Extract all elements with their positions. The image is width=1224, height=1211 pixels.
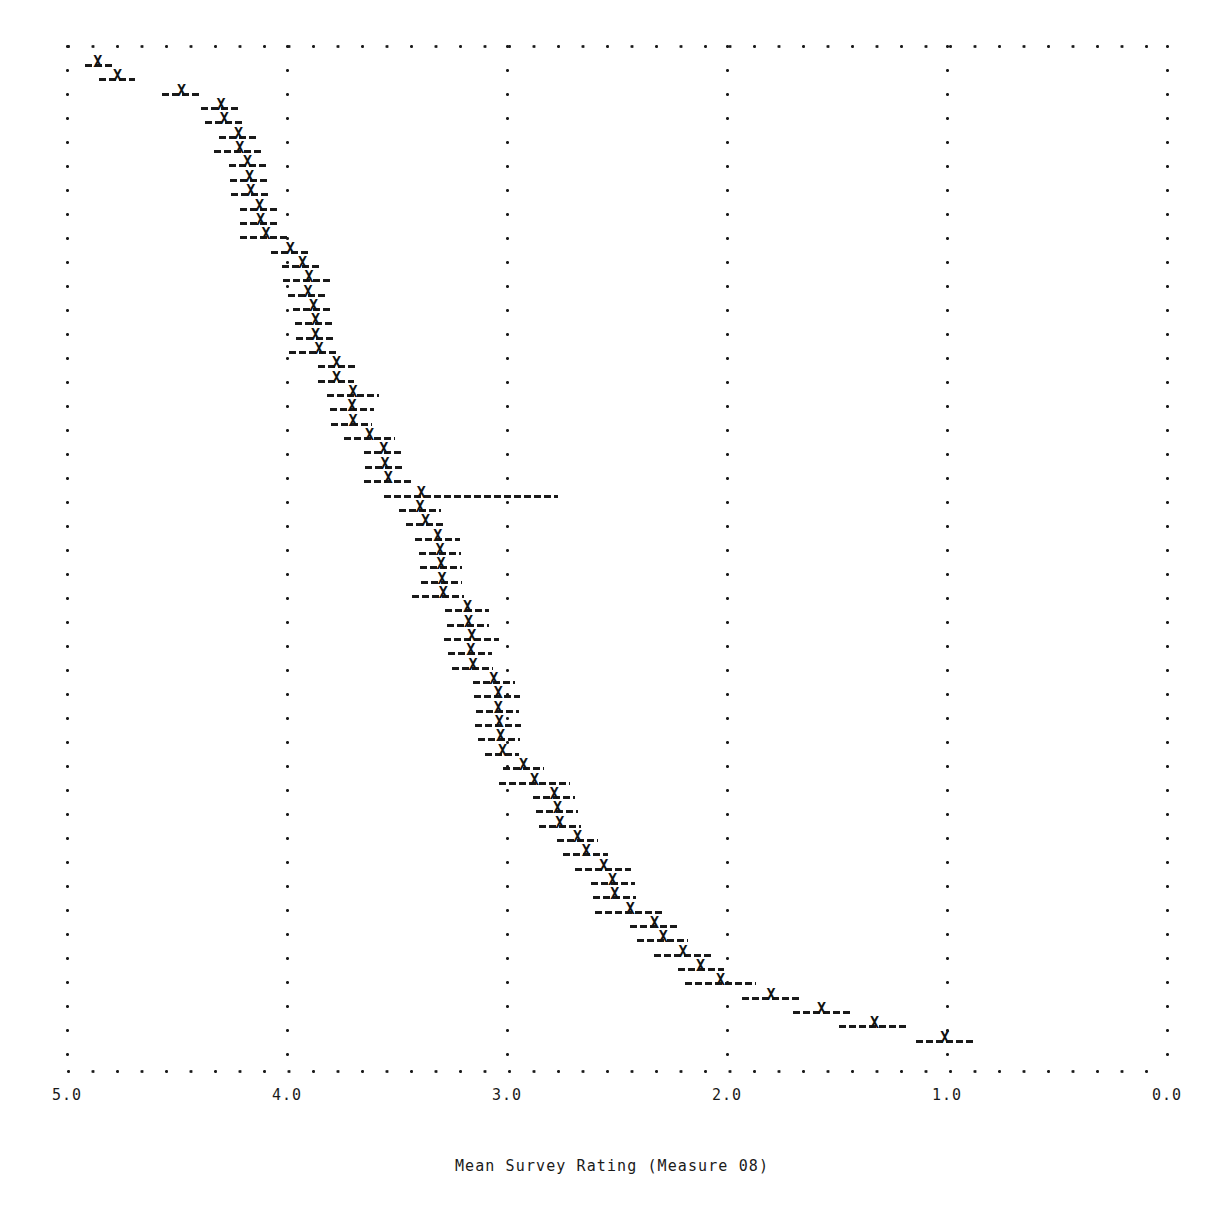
data-point-marker: X: [176, 85, 187, 98]
data-row: X: [0, 389, 1224, 402]
data-row: X: [0, 633, 1224, 646]
data-row: X: [0, 188, 1224, 201]
data-row: X: [0, 116, 1224, 129]
data-point-marker: X: [678, 946, 689, 959]
data-row: X: [0, 432, 1224, 445]
data-point-marker: X: [285, 243, 296, 256]
data-point-marker: X: [420, 515, 431, 528]
data-row: X: [0, 791, 1224, 804]
data-row: X: [0, 375, 1224, 388]
data-row: X: [0, 733, 1224, 746]
data-row: X: [0, 848, 1224, 861]
data-row: X: [0, 174, 1224, 187]
data-row: X: [0, 88, 1224, 101]
data-point-marker: X: [497, 745, 508, 758]
data-row: X: [0, 576, 1224, 589]
data-row: X: [0, 217, 1224, 230]
data-row: X: [0, 547, 1224, 560]
data-point-marker: X: [313, 343, 324, 356]
data-point-marker: X: [816, 1003, 827, 1016]
data-row: X: [0, 719, 1224, 732]
data-row: X: [0, 920, 1224, 933]
x-tick-label-0-0: 0.0: [1152, 1086, 1182, 1104]
data-row: X: [0, 777, 1224, 790]
confidence-interval-bar: [384, 495, 558, 498]
data-row: X: [0, 145, 1224, 158]
data-row: X: [0, 246, 1224, 259]
data-row: X: [0, 647, 1224, 660]
x-tick-label-5-0: 5.0: [52, 1086, 82, 1104]
data-row: X: [0, 231, 1224, 244]
data-row: X: [0, 906, 1224, 919]
data-row: X: [0, 131, 1224, 144]
data-point-marker: X: [695, 960, 706, 973]
data-row: X: [0, 260, 1224, 273]
data-row: X: [0, 662, 1224, 675]
x-axis-tick-labels: 5.04.03.02.01.00.0: [0, 1086, 1224, 1110]
data-point-marker: X: [609, 888, 620, 901]
data-row: X: [0, 590, 1224, 603]
data-row: X: [0, 992, 1224, 1005]
data-row: X: [0, 346, 1224, 359]
data-row: X: [0, 977, 1224, 990]
data-row: X: [0, 518, 1224, 531]
data-row: X: [0, 676, 1224, 689]
data-point-marker: X: [261, 228, 272, 241]
data-row: X: [0, 446, 1224, 459]
data-point-marker: X: [364, 429, 375, 442]
data-point-marker: X: [939, 1032, 950, 1045]
data-row: X: [0, 891, 1224, 904]
gridline-top: [67, 45, 1168, 48]
data-row: X: [0, 159, 1224, 172]
data-point-marker: X: [438, 587, 449, 600]
data-row: X: [0, 59, 1224, 72]
gridline-bottom: [67, 1070, 1168, 1073]
data-point-marker: X: [112, 70, 123, 83]
data-row: X: [0, 949, 1224, 962]
data-row: X: [0, 303, 1224, 316]
data-point-marker: X: [518, 759, 529, 772]
data-point-marker: X: [467, 659, 478, 672]
x-axis-title: Mean Survey Rating (Measure 08): [0, 1157, 1224, 1175]
data-row: X: [0, 418, 1224, 431]
data-row: X: [0, 274, 1224, 287]
x-tick-label-2-0: 2.0: [712, 1086, 742, 1104]
data-row: X: [0, 820, 1224, 833]
data-row: X: [0, 934, 1224, 947]
data-row: X: [0, 533, 1224, 546]
data-point-marker: X: [625, 903, 636, 916]
data-point-marker: X: [331, 372, 342, 385]
data-row: X: [0, 317, 1224, 330]
data-row: X: [0, 1006, 1224, 1019]
data-point-marker: X: [869, 1017, 880, 1030]
data-point-marker: X: [92, 56, 103, 69]
data-row: X: [0, 604, 1224, 617]
data-row: X: [0, 461, 1224, 474]
data-row: X: [0, 834, 1224, 847]
data-point-marker: X: [658, 931, 669, 944]
x-tick-label-1-0: 1.0: [932, 1086, 962, 1104]
plot-area: XXXXXXXXXXXXXXXXXXXXXXXXXXXXXXXXXXXXXXXX…: [0, 0, 1224, 1080]
x-tick-label-3-0: 3.0: [492, 1086, 522, 1104]
data-row: X: [0, 475, 1224, 488]
data-row: X: [0, 561, 1224, 574]
data-point-marker: X: [766, 989, 777, 1002]
data-row: X: [0, 762, 1224, 775]
data-point-marker: X: [715, 974, 726, 987]
data-point-marker: X: [554, 817, 565, 830]
data-point-marker: X: [581, 845, 592, 858]
data-row: X: [0, 332, 1224, 345]
data-point-marker: X: [383, 472, 394, 485]
data-row: X: [0, 619, 1224, 632]
data-row: X: [0, 748, 1224, 761]
data-row: X: [0, 203, 1224, 216]
data-row: X: [0, 805, 1224, 818]
x-tick-label-4-0: 4.0: [272, 1086, 302, 1104]
data-row: X: [0, 1035, 1224, 1048]
data-row: X: [0, 490, 1224, 503]
data-row: X: [0, 504, 1224, 517]
data-row: X: [0, 963, 1224, 976]
data-row: X: [0, 360, 1224, 373]
data-row: X: [0, 705, 1224, 718]
data-row: X: [0, 1020, 1224, 1033]
